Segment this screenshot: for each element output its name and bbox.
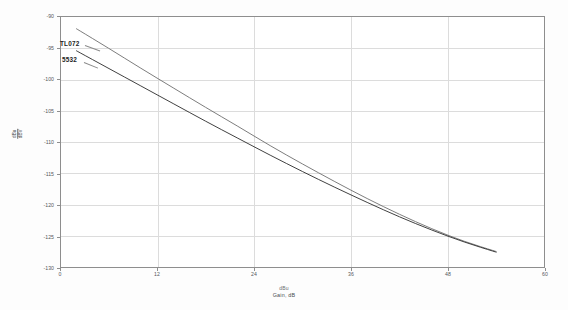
x-axis-title-text: Gain, dB bbox=[273, 292, 296, 298]
data-series-layer bbox=[0, 0, 568, 310]
series-label-tl072: TL072 bbox=[60, 40, 79, 47]
y-axis-title-fraction: dBu dBV bbox=[12, 129, 24, 139]
y-axis-title-unit-bottom: dBV bbox=[19, 129, 24, 138]
series-line-5532 bbox=[76, 51, 496, 253]
series-label-5532: 5532 bbox=[62, 56, 77, 63]
x-axis-title-unit: dBu bbox=[0, 285, 568, 291]
series-line-tl072 bbox=[76, 29, 496, 252]
y-axis-title: dBu dBV bbox=[12, 104, 24, 164]
chart-canvas: -90-95-100-105-110-115-120-125-130 01224… bbox=[0, 0, 568, 310]
x-axis-title: dBu Gain, dB bbox=[0, 285, 568, 298]
